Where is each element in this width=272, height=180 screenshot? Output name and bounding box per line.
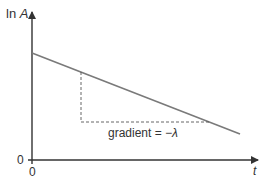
chart-canvas <box>0 0 272 180</box>
x-origin-label: 0 <box>29 166 36 178</box>
y-origin-label: 0 <box>17 154 24 166</box>
y-axis-label: ln A <box>6 7 28 20</box>
y-axis-label-fn: ln <box>6 6 16 21</box>
gradient-annotation: gradient = −λ <box>108 127 178 139</box>
chart: ln A t 0 0 gradient = −λ <box>0 0 272 180</box>
gradient-annotation-prefix: gradient = <box>108 126 165 140</box>
y-axis-label-var: A <box>20 6 29 21</box>
gradient-annotation-symbol: −λ <box>165 126 178 140</box>
x-axis-label: t <box>253 165 256 177</box>
